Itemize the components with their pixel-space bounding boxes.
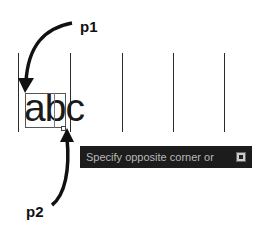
arrow-p1-icon (26, 23, 72, 82)
annotation-arrows (0, 0, 259, 229)
tooltip-text: Specify opposite corner or (86, 151, 214, 163)
dropdown-arrow-icon[interactable] (236, 152, 246, 162)
p1-label: p1 (80, 18, 98, 35)
p2-label: p2 (26, 203, 44, 220)
arrow-p2-icon (52, 138, 68, 205)
drawing-canvas[interactable]: abc p1 p2 Specify opposite corner or (0, 0, 259, 229)
command-prompt-tooltip: Specify opposite corner or (80, 146, 252, 168)
